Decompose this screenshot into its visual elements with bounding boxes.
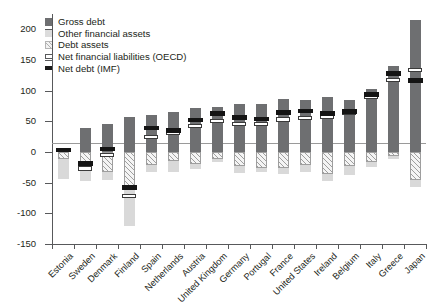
bar-segment-debt-assets: [212, 152, 223, 159]
chart-root: Gross debt Other financial assets Debt a…: [0, 0, 438, 308]
bar-segment-gross-debt: [146, 115, 157, 152]
bar-segment-other-financial-assets: [146, 165, 157, 172]
marker-net-financial-liabilities-oecd: [254, 122, 268, 126]
marker-net-debt-imf: [408, 78, 423, 83]
bar-segment-gross-debt: [322, 97, 333, 152]
x-tick: [360, 244, 361, 249]
y-tick: [45, 91, 52, 92]
marker-net-financial-liabilities-oecd: [386, 78, 400, 82]
bar-group[interactable]: [388, 14, 399, 244]
bar-segment-debt-assets: [234, 152, 245, 166]
y-tick-label: 50: [0, 116, 36, 125]
bar-group[interactable]: [256, 14, 267, 244]
x-tick: [206, 244, 207, 249]
x-tick: [140, 244, 141, 249]
marker-net-debt-imf: [188, 118, 203, 123]
marker-net-debt-imf: [298, 109, 313, 114]
bar-group[interactable]: [366, 14, 377, 244]
y-tick-label: 150: [0, 55, 36, 64]
y-tick-label: -100: [0, 208, 36, 217]
bar-segment-other-financial-assets: [278, 168, 289, 174]
x-tick: [74, 244, 75, 249]
bar-segment-gross-debt: [278, 99, 289, 152]
marker-net-debt-imf: [320, 111, 335, 116]
x-tick: [404, 244, 405, 249]
bar-group[interactable]: [212, 14, 223, 244]
bar-segment-gross-debt: [234, 104, 245, 152]
bar-group[interactable]: [300, 14, 311, 244]
marker-net-financial-liabilities-oecd: [232, 122, 246, 126]
bar-group[interactable]: [80, 14, 91, 244]
bar-group[interactable]: [58, 14, 69, 244]
bar-segment-debt-assets: [278, 152, 289, 168]
bar-segment-debt-assets: [58, 152, 69, 159]
y-tick-label: -150: [0, 239, 36, 248]
bar-segment-debt-assets: [300, 152, 311, 165]
marker-net-financial-liabilities-oecd: [188, 124, 202, 128]
bar-segment-other-financial-assets: [388, 156, 399, 159]
marker-net-financial-liabilities-oecd: [144, 135, 158, 139]
bar-group[interactable]: [278, 14, 289, 244]
marker-net-debt-imf: [254, 117, 269, 122]
marker-net-financial-liabilities-oecd: [276, 117, 290, 121]
marker-net-financial-liabilities-oecd: [78, 166, 92, 170]
bar-segment-debt-assets: [256, 152, 267, 168]
bar-segment-other-financial-assets: [234, 166, 245, 173]
x-tick: [162, 244, 163, 249]
marker-net-debt-imf: [386, 71, 401, 76]
marker-net-financial-liabilities-oecd: [122, 194, 136, 198]
bar-segment-other-financial-assets: [58, 159, 69, 179]
bar-group[interactable]: [102, 14, 113, 244]
x-tick: [272, 244, 273, 249]
bar-segment-other-financial-assets: [212, 159, 223, 162]
marker-net-debt-imf: [166, 128, 181, 133]
bar-segment-debt-assets: [410, 152, 421, 180]
x-tick: [118, 244, 119, 249]
y-tick: [45, 121, 52, 122]
bar-segment-gross-debt: [410, 20, 421, 152]
y-tick: [45, 29, 52, 30]
bar-segment-other-financial-assets: [300, 165, 311, 172]
bar-segment-other-financial-assets: [102, 172, 113, 180]
x-tick: [228, 244, 229, 249]
bar-group[interactable]: [344, 14, 355, 244]
marker-net-debt-imf: [364, 92, 379, 97]
marker-net-debt-imf: [78, 161, 93, 166]
marker-net-debt-imf: [122, 185, 137, 190]
bar-group[interactable]: [190, 14, 201, 244]
marker-net-financial-liabilities-oecd: [210, 119, 224, 123]
y-tick-label: -50: [0, 178, 36, 187]
x-tick: [294, 244, 295, 249]
y-tick: [45, 244, 52, 245]
bar-segment-debt-assets: [190, 152, 201, 164]
bar-group[interactable]: [410, 14, 421, 244]
bar-group[interactable]: [124, 14, 135, 244]
bar-segment-gross-debt: [80, 128, 91, 152]
bar-group[interactable]: [322, 14, 333, 244]
marker-net-debt-imf: [56, 148, 71, 153]
bar-segment-other-financial-assets: [168, 161, 179, 173]
marker-net-debt-imf: [100, 147, 115, 152]
marker-net-financial-liabilities-oecd: [100, 153, 114, 157]
bar-segment-gross-debt: [190, 108, 201, 152]
y-tick: [45, 183, 52, 184]
bar-segment-debt-assets: [366, 152, 377, 162]
bar-segment-other-financial-assets: [366, 162, 377, 168]
bar-group[interactable]: [146, 14, 157, 244]
x-tick: [316, 244, 317, 249]
marker-net-debt-imf: [276, 110, 291, 115]
y-tick-label: 100: [0, 86, 36, 95]
marker-net-financial-liabilities-oecd: [408, 68, 422, 72]
x-tick: [338, 244, 339, 249]
bar-segment-other-financial-assets: [410, 180, 421, 187]
bar-group[interactable]: [234, 14, 245, 244]
bar-segment-debt-assets: [124, 152, 135, 187]
bar-segment-gross-debt: [344, 100, 355, 152]
x-tick: [52, 244, 53, 249]
bar-segment-debt-assets: [168, 152, 179, 161]
marker-net-financial-liabilities-oecd: [298, 116, 312, 120]
bar-segment-gross-debt: [124, 117, 135, 152]
marker-net-debt-imf: [144, 126, 159, 131]
bar-group[interactable]: [168, 14, 179, 244]
bar-segment-other-financial-assets: [256, 168, 267, 172]
